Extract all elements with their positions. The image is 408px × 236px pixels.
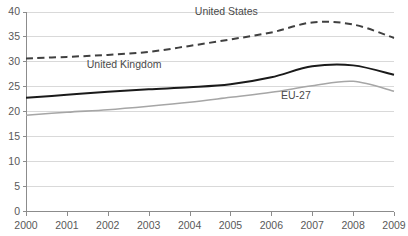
y-tick-label-0: 0 bbox=[14, 205, 20, 217]
x-tick-label-2003: 2003 bbox=[137, 219, 161, 231]
x-tick-label-2007: 2007 bbox=[301, 219, 325, 231]
y-tick-label-40: 40 bbox=[8, 5, 20, 17]
x-tick-label-2006: 2006 bbox=[260, 219, 284, 231]
y-tick-label-10: 10 bbox=[8, 155, 20, 167]
data-series-group bbox=[26, 22, 394, 115]
y-tick-label-30: 30 bbox=[8, 55, 20, 67]
series-label-eu-27: EU-27 bbox=[281, 89, 311, 101]
x-tick-label-2001: 2001 bbox=[55, 219, 79, 231]
x-tick-label-2008: 2008 bbox=[341, 219, 365, 231]
x-axis-group bbox=[26, 212, 395, 216]
y-tick-label-20: 20 bbox=[8, 105, 20, 117]
x-tick-label-2009: 2009 bbox=[382, 219, 406, 231]
x-tick-label-2000: 2000 bbox=[14, 219, 38, 231]
series-line-united-states bbox=[26, 22, 394, 59]
y-tick-labels-group: 0510152025303540 bbox=[8, 5, 20, 217]
x-tick-label-2005: 2005 bbox=[219, 219, 243, 231]
y-tick-label-25: 25 bbox=[8, 80, 20, 92]
y-axis-group bbox=[23, 12, 27, 212]
series-label-united-kingdom: United Kingdom bbox=[87, 58, 162, 70]
x-tick-label-2002: 2002 bbox=[96, 219, 120, 231]
line-chart: 0510152025303540 20002001200220032004200… bbox=[0, 0, 408, 236]
x-tick-labels-group: 2000200120022003200420052006200720082009 bbox=[14, 219, 406, 231]
y-tick-label-15: 15 bbox=[8, 130, 20, 142]
x-tick-label-2004: 2004 bbox=[178, 219, 202, 231]
chart-canvas: 0510152025303540 20002001200220032004200… bbox=[0, 0, 408, 236]
y-tick-label-5: 5 bbox=[14, 180, 20, 192]
y-tick-label-35: 35 bbox=[8, 30, 20, 42]
series-label-united-states: United States bbox=[195, 5, 258, 17]
